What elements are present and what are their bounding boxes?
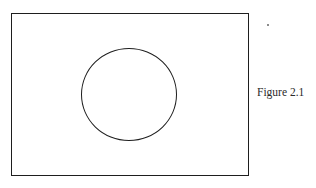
circle-shape (81, 48, 177, 141)
figure-caption: Figure 2.1 (257, 86, 304, 98)
scan-speck (267, 24, 269, 26)
